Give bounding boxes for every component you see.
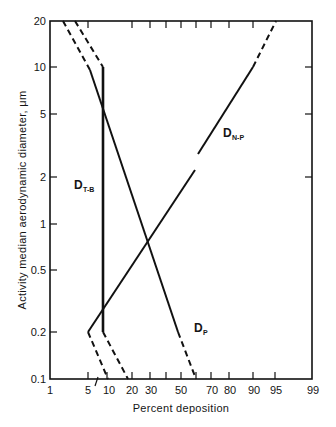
y-tick-0.2: 0.2 xyxy=(31,326,46,338)
x-tick-10: 10 xyxy=(103,384,115,396)
svg-text:D: D xyxy=(194,321,203,335)
deposition-chart: 20 10 5 2 1 0.5 0.2 0.1 xyxy=(0,0,336,427)
x-tick-50: 50 xyxy=(175,384,187,396)
x-tick-99: 99 xyxy=(307,384,319,396)
y-tick-20: 20 xyxy=(34,15,46,27)
y-tick-0.5: 0.5 xyxy=(31,264,46,276)
y-axis-ticks xyxy=(50,67,312,332)
y-tick-1: 1 xyxy=(40,218,46,230)
x-tick-1: 1 xyxy=(47,384,53,396)
x-axis-title: Percent deposition xyxy=(133,402,230,414)
x-tick-70: 70 xyxy=(206,384,218,396)
label-dp: D P xyxy=(194,321,208,336)
svg-text:P: P xyxy=(203,329,208,336)
x-tick-20: 20 xyxy=(126,384,138,396)
y-tick-5: 5 xyxy=(40,108,46,120)
x-tick-90: 90 xyxy=(248,384,260,396)
y-axis-title: Activity median aerodynamic diameter, μm xyxy=(16,91,28,310)
svg-text:N-P: N-P xyxy=(232,134,244,141)
series-dnp xyxy=(88,21,276,379)
plot-frame xyxy=(50,21,312,379)
y-tick-0.1: 0.1 xyxy=(31,373,46,385)
series-dtb xyxy=(75,21,128,379)
x-tick-5: 5 xyxy=(85,384,91,396)
x-tick-95: 95 xyxy=(270,384,282,396)
y-tick-2: 2 xyxy=(40,171,46,183)
label-dtb: D T-B xyxy=(74,178,94,193)
x-axis-tick-labels: 1 5 10 20 30 50 70 80 90 95 99 xyxy=(47,384,319,396)
svg-text:D: D xyxy=(223,126,232,140)
svg-text:D: D xyxy=(74,178,83,192)
svg-text:T-B: T-B xyxy=(83,186,94,193)
x-tick-30: 30 xyxy=(145,384,157,396)
y-tick-10: 10 xyxy=(34,61,46,73)
x-tick-80: 80 xyxy=(224,384,236,396)
label-dnp: D N-P xyxy=(223,126,244,141)
y-axis-tick-labels: 20 10 5 2 1 0.5 0.2 0.1 xyxy=(31,15,46,385)
